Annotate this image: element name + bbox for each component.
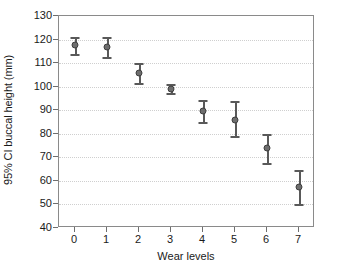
plot-area <box>58 15 314 227</box>
error-cap-upper <box>135 63 144 65</box>
error-cap-upper <box>103 37 112 39</box>
data-point-marker <box>72 42 79 49</box>
y-tick-label: 90 <box>26 103 52 115</box>
y-tick-mark <box>53 156 58 157</box>
y-tick-mark <box>53 227 58 228</box>
gridline-y <box>59 63 313 64</box>
y-tick-mark <box>53 86 58 87</box>
data-point-marker <box>168 85 175 92</box>
error-cap-upper <box>231 101 240 103</box>
x-tick-label: 4 <box>192 233 212 245</box>
x-tick-mark <box>266 227 267 232</box>
data-point-marker <box>296 183 303 190</box>
y-tick-label: 100 <box>26 80 52 92</box>
error-cap-upper <box>71 37 80 39</box>
y-tick-label: 130 <box>26 9 52 21</box>
y-tick-label: 40 <box>26 221 52 233</box>
x-tick-mark <box>170 227 171 232</box>
x-tick-label: 5 <box>224 233 244 245</box>
y-tick-mark <box>53 15 58 16</box>
gridline-y <box>59 157 313 158</box>
x-tick-mark <box>106 227 107 232</box>
x-axis-title: Wear levels <box>58 250 314 262</box>
error-cap-lower <box>231 136 240 138</box>
gridline-y <box>59 87 313 88</box>
gridline-y <box>59 181 313 182</box>
y-tick-label: 80 <box>26 127 52 139</box>
data-point-marker <box>264 145 271 152</box>
error-cap-upper <box>199 100 208 102</box>
y-tick-label: 60 <box>26 174 52 186</box>
x-tick-mark <box>234 227 235 232</box>
y-tick-label: 120 <box>26 33 52 45</box>
y-tick-mark <box>53 203 58 204</box>
gridline-y <box>59 204 313 205</box>
chart-figure: 95% CI buccal height (mm) Wear levels 40… <box>0 0 342 272</box>
y-tick-label: 110 <box>26 56 52 68</box>
error-cap-lower <box>135 83 144 85</box>
x-tick-label: 2 <box>128 233 148 245</box>
x-tick-label: 1 <box>96 233 116 245</box>
x-tick-mark <box>74 227 75 232</box>
x-tick-label: 0 <box>64 233 84 245</box>
error-cap-upper <box>263 134 272 136</box>
x-tick-mark <box>138 227 139 232</box>
data-point-marker <box>136 69 143 76</box>
error-cap-lower <box>167 93 176 95</box>
error-cap-lower <box>71 54 80 56</box>
error-cap-lower <box>263 163 272 165</box>
gridline-y <box>59 40 313 41</box>
y-tick-mark <box>53 180 58 181</box>
y-tick-mark <box>53 62 58 63</box>
y-tick-label: 50 <box>26 197 52 209</box>
y-tick-mark <box>53 133 58 134</box>
x-tick-label: 7 <box>288 233 308 245</box>
x-tick-label: 6 <box>256 233 276 245</box>
y-tick-label: 70 <box>26 150 52 162</box>
y-axis-title: 95% CI buccal height (mm) <box>2 4 18 236</box>
gridline-y <box>59 110 313 111</box>
error-cap-upper <box>295 170 304 172</box>
data-point-marker <box>200 108 207 115</box>
y-tick-mark <box>53 109 58 110</box>
y-tick-mark <box>53 39 58 40</box>
x-tick-mark <box>202 227 203 232</box>
error-cap-lower <box>295 204 304 206</box>
x-tick-mark <box>298 227 299 232</box>
data-point-marker <box>104 43 111 50</box>
gridline-y <box>59 134 313 135</box>
error-cap-lower <box>199 122 208 124</box>
x-tick-label: 3 <box>160 233 180 245</box>
data-point-marker <box>232 116 239 123</box>
error-cap-lower <box>103 57 112 59</box>
